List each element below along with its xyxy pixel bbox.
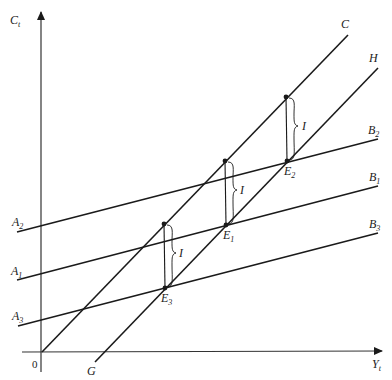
line-g-label: G [87, 364, 96, 378]
gap-label-e1: I [239, 183, 245, 197]
line-gh [95, 68, 378, 362]
label-a3: A3 [11, 309, 23, 325]
line-a1-b1 [17, 186, 378, 280]
line-a3-b3 [18, 233, 378, 326]
line-h-label: H [368, 51, 379, 65]
line-c [42, 35, 348, 352]
gap-label-e2: I [301, 119, 307, 133]
line-a2-b2 [17, 139, 378, 232]
label-e1: E1 [222, 228, 234, 244]
x-axis [22, 351, 382, 352]
label-a2: A2 [11, 215, 23, 231]
label-e2: E2 [283, 164, 295, 180]
line-c-label: C [341, 17, 350, 31]
y-axis-label: Ct [10, 13, 21, 29]
x-axis-label: Yt [372, 357, 382, 373]
gap-label-e3: I [178, 246, 184, 260]
origin-label: 0 [32, 358, 38, 370]
consumption-income-diagram: Ct Yt 0 C H G B2 B1 B3 A2 A1 A3 I I I E2… [0, 0, 392, 380]
label-a1: A1 [10, 264, 22, 280]
label-e3: E3 [160, 291, 172, 307]
label-b3: B3 [369, 217, 380, 233]
label-b1: B1 [369, 170, 380, 186]
label-b2: B2 [368, 123, 379, 139]
